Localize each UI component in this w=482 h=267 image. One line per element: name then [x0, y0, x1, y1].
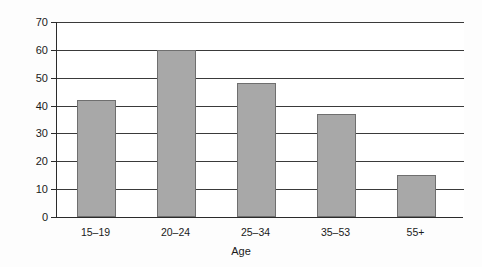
x-tick-label: 15–19	[81, 226, 110, 238]
x-tick-label: 35–53	[321, 226, 350, 238]
y-tick-label: 60	[0, 44, 48, 56]
bar	[77, 100, 116, 217]
y-tick-label: 40	[0, 100, 48, 112]
x-tick-label: 20–24	[161, 226, 190, 238]
x-tick-label: 55+	[407, 226, 425, 238]
bar	[237, 83, 276, 217]
y-tick-label: 30	[0, 127, 48, 139]
y-tick-label: 20	[0, 155, 48, 167]
x-axis-title: Age	[0, 245, 482, 257]
y-tick-label: 10	[0, 183, 48, 195]
x-tick-label: 25–34	[241, 226, 270, 238]
plot-area	[56, 22, 464, 217]
bar	[157, 50, 196, 217]
y-tick-label: 50	[0, 72, 48, 84]
y-tick-label: 0	[0, 211, 48, 223]
bar-series	[57, 22, 464, 217]
x-axis-line	[55, 217, 463, 218]
bar	[397, 175, 436, 217]
y-tick-label: 70	[0, 16, 48, 28]
bar	[317, 114, 356, 217]
bar-chart-figure: Percentage 010203040506070 15–1920–2425–…	[0, 0, 482, 267]
